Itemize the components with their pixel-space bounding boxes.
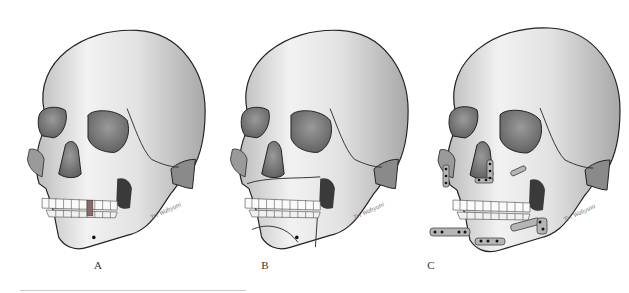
mental-foramen-dot	[92, 236, 96, 240]
skull-b-illustration	[208, 0, 413, 260]
skull-c-illustration	[415, 0, 625, 260]
missing-tooth-marker	[87, 200, 93, 216]
panel-label-c: C	[421, 259, 441, 271]
panel-a	[5, 0, 210, 260]
caption-rule	[20, 290, 246, 291]
panel-label-b: B	[255, 259, 275, 271]
panel-c	[415, 0, 625, 260]
skull-a-illustration	[5, 0, 210, 260]
panel-label-a: A	[88, 259, 108, 271]
panel-b	[208, 0, 413, 260]
